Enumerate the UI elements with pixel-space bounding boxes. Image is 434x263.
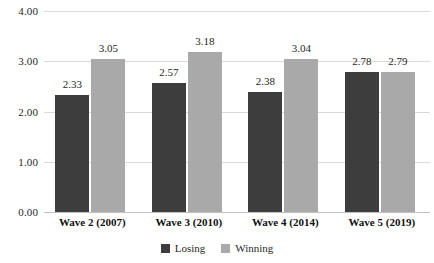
y-tick-label: 1.00 [0,157,38,168]
bar-losing [55,95,89,212]
gridline-0-00 [44,212,430,213]
y-tick-label: 3.00 [0,56,38,67]
bar-group: 2.333.05 [55,11,125,212]
legend-item-winning[interactable]: Winning [221,243,273,254]
legend-swatch-winning-icon [221,244,230,253]
bar-group: 2.383.04 [248,11,318,212]
legend-item-losing[interactable]: Losing [161,243,206,254]
plot-area: 2.333.052.573.182.383.042.782.79 [44,11,430,212]
bar-value-label: 3.04 [278,43,324,54]
y-tick-label: 0.00 [0,207,38,218]
x-axis-label: Wave 5 (2019) [324,216,434,228]
legend-label: Winning [235,243,273,254]
bar-value-label: 2.79 [375,56,421,67]
bar-value-label: 2.33 [49,79,95,90]
bar-group: 2.573.18 [152,11,222,212]
bar-losing [248,92,282,212]
legend-label: Losing [175,243,206,254]
bar-value-label: 2.38 [242,76,288,87]
grouped-bar-chart: 0.001.002.003.004.00 2.333.052.573.182.3… [0,0,434,263]
y-tick-label: 4.00 [0,6,38,17]
bar-winning [381,72,415,212]
chart-legend: LosingWinning [0,243,434,254]
y-tick-label: 2.00 [0,107,38,118]
bar-winning [284,59,318,212]
legend-swatch-losing-icon [161,244,170,253]
bar-value-label: 2.57 [146,67,192,78]
bar-group: 2.782.79 [345,11,415,212]
bar-winning [188,52,222,212]
bar-value-label: 3.18 [182,36,228,47]
bar-value-label: 3.05 [85,43,131,54]
bar-losing [152,83,186,212]
bar-winning [91,59,125,212]
bar-losing [345,72,379,212]
